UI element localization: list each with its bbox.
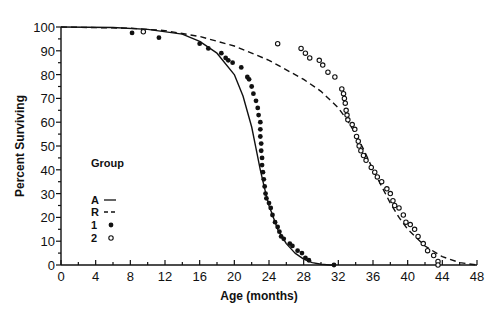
point-group-2 [345, 113, 349, 117]
point-group-2 [416, 234, 420, 238]
x-tick-label: 8 [127, 269, 134, 284]
point-group-2 [299, 46, 303, 50]
point-group-2 [303, 51, 307, 55]
x-tick-label: 48 [470, 269, 484, 284]
point-group-2 [379, 180, 383, 184]
point-group-2 [354, 134, 358, 138]
y-tick-label: 10 [41, 234, 55, 249]
point-group-2 [357, 144, 361, 148]
point-group-2 [341, 91, 345, 95]
point-group-1 [277, 229, 282, 234]
y-tick-label: 70 [41, 91, 55, 106]
legend-filled-circle-icon [109, 223, 114, 228]
x-tick-label: 24 [262, 269, 276, 284]
point-group-2 [326, 70, 330, 74]
point-group-2 [421, 241, 425, 245]
point-group-1 [300, 251, 305, 256]
legend-label-2: 2 [91, 232, 97, 244]
y-tick-label: 40 [41, 163, 55, 178]
point-group-1 [219, 51, 224, 56]
point-group-2 [401, 213, 405, 217]
point-group-1 [247, 77, 252, 82]
point-group-2 [436, 263, 440, 267]
point-group-2 [397, 206, 401, 210]
point-group-2 [364, 158, 368, 162]
point-group-2 [392, 203, 396, 207]
legend-open-circle-icon [109, 236, 113, 240]
point-group-2 [408, 222, 412, 226]
x-axis-label: Age (months) [220, 289, 297, 303]
x-tick-label: 20 [227, 269, 241, 284]
y-tick-label: 90 [41, 44, 55, 59]
point-group-1 [295, 248, 300, 253]
point-group-1 [263, 191, 268, 196]
point-group-2 [356, 139, 360, 143]
point-group-2 [346, 118, 350, 122]
point-group-2 [321, 63, 325, 67]
point-group-2 [340, 87, 344, 91]
legend-title: Group [91, 157, 124, 169]
survival-chart: 0481216202428323640444801020304050607080… [0, 0, 501, 320]
point-group-1 [261, 177, 266, 182]
point-group-2 [391, 199, 395, 203]
y-axis-label: Percent Surviving [13, 95, 27, 197]
legend-label-A: A [91, 194, 99, 206]
point-group-1 [197, 41, 202, 46]
point-group-1 [260, 156, 265, 161]
point-group-1 [264, 196, 269, 201]
point-group-2 [308, 56, 312, 60]
point-group-1 [259, 141, 264, 146]
point-group-2 [388, 191, 392, 195]
data-points [130, 30, 441, 268]
point-group-1 [306, 258, 311, 263]
x-tick-label: 4 [92, 269, 99, 284]
point-group-1 [258, 127, 263, 132]
point-group-2 [343, 101, 347, 105]
point-group-2 [431, 253, 435, 257]
point-group-2 [361, 153, 365, 157]
x-tick-label: 12 [158, 269, 172, 284]
point-group-2 [333, 75, 337, 79]
point-group-1 [332, 263, 337, 268]
point-group-1 [130, 31, 135, 36]
y-tick-label: 50 [41, 139, 55, 154]
point-group-2 [350, 122, 354, 126]
point-group-2 [342, 96, 346, 100]
point-group-2 [425, 249, 429, 253]
point-group-1 [270, 213, 275, 218]
point-group-2 [369, 165, 373, 169]
x-tick-label: 32 [331, 269, 345, 284]
y-tick-label: 30 [41, 187, 55, 202]
point-group-1 [256, 113, 261, 118]
point-group-2 [275, 41, 279, 45]
point-group-1 [226, 58, 231, 63]
legend-label-R: R [91, 206, 99, 218]
point-group-1 [261, 170, 266, 175]
y-tick-label: 20 [41, 210, 55, 225]
point-group-1 [262, 184, 267, 189]
point-group-1 [230, 60, 235, 65]
point-group-1 [258, 134, 263, 139]
point-group-1 [157, 35, 162, 40]
point-group-1 [249, 84, 254, 89]
point-group-1 [281, 236, 286, 241]
point-group-1 [239, 65, 244, 70]
x-tick-label: 16 [192, 269, 206, 284]
curve-A [61, 27, 334, 265]
point-group-1 [259, 148, 264, 153]
point-group-2 [375, 175, 379, 179]
legend: GroupAR12 [91, 157, 124, 244]
legend-label-1: 1 [91, 219, 97, 231]
x-tick-label: 40 [400, 269, 414, 284]
point-group-1 [290, 244, 295, 249]
point-group-2 [385, 187, 389, 191]
x-tick-label: 36 [366, 269, 380, 284]
x-tick-label: 0 [57, 269, 64, 284]
point-group-1 [255, 106, 260, 111]
y-tick-label: 60 [41, 115, 55, 130]
y-tick-label: 100 [33, 20, 55, 35]
x-tick-label: 28 [296, 269, 310, 284]
point-group-1 [275, 225, 280, 230]
point-group-2 [412, 227, 416, 231]
y-tick-label: 0 [48, 258, 55, 273]
